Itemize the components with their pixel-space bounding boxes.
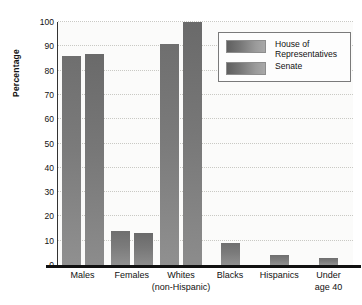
y-tick-label: 60 (28, 114, 54, 124)
y-tick-label: 30 (28, 187, 54, 197)
bar-senate (85, 54, 104, 265)
y-tick-label: 40 (28, 163, 54, 173)
y-tick-label: 10 (28, 236, 54, 246)
bar-house (62, 56, 81, 265)
y-tick-label: 80 (28, 66, 54, 76)
y-axis-tick-labels: 0102030405060708090100 (26, 22, 54, 265)
x-axis-labels: MalesFemalesWhites(non-Hispanic)BlacksHi… (58, 270, 353, 304)
legend-label-house: House of Representatives (275, 40, 337, 59)
legend-item-house-of-representatives: House of Representatives (226, 40, 337, 59)
x-axis-line (46, 265, 361, 268)
bar-house (270, 255, 289, 265)
legend-swatch-house (226, 40, 266, 53)
legend-swatch-senate (226, 62, 266, 75)
chart-legend: House of Representatives Senate (218, 32, 351, 82)
x-axis-label-sub: age 40 (294, 282, 362, 294)
bar-house (319, 258, 338, 265)
bar-group (58, 22, 107, 265)
bar-chart: Percentage 0102030405060708090100 MalesF… (0, 0, 362, 305)
y-tick-label: 50 (28, 139, 54, 149)
bar-house (221, 243, 240, 265)
y-axis-title: Percentage (11, 38, 21, 108)
bar-group (156, 22, 205, 265)
y-tick-label: 20 (28, 211, 54, 221)
y-tick-label: 70 (28, 90, 54, 100)
x-axis-label: Underage 40 (294, 270, 362, 293)
y-tick-label: 100 (28, 17, 54, 27)
bar-group (107, 22, 156, 265)
legend-item-senate: Senate (226, 62, 302, 75)
legend-label-senate: Senate (275, 62, 302, 72)
bar-senate (134, 233, 153, 265)
bar-house (160, 44, 179, 265)
y-tick-label: 90 (28, 41, 54, 51)
x-axis-label-sub: (non-Hispanic) (146, 282, 215, 294)
bar-house (111, 231, 130, 265)
bar-senate (183, 22, 202, 265)
